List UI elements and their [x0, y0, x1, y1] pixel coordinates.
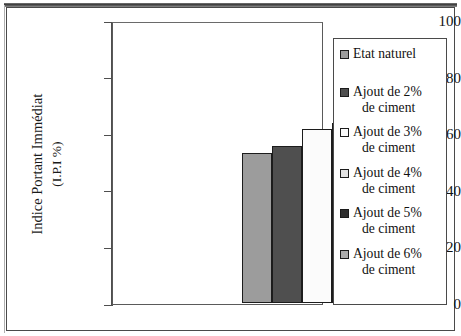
legend-label-line1: Ajout de 2%	[353, 84, 422, 99]
legend-label-line2: de ciment	[353, 221, 422, 237]
legend-swatch-icon	[340, 50, 349, 59]
legend-label-line2: de ciment	[353, 140, 422, 156]
legend-item: Ajout de 6%de ciment	[340, 246, 442, 278]
legend-label: Etat naturel	[353, 46, 416, 62]
plot-area	[112, 22, 323, 305]
legend-label-line1: Ajout de 4%	[353, 165, 422, 180]
legend-swatch-icon	[340, 128, 349, 137]
legend-label-line1: Ajout de 5%	[353, 205, 422, 220]
legend-swatch-icon	[340, 169, 349, 178]
y-axis-title-line1: Indice Portant Immédiat	[29, 94, 45, 235]
legend-label-line2: de ciment	[353, 100, 422, 116]
chart-legend: Etat naturelAjout de 2%de cimentAjout de…	[333, 38, 447, 305]
legend-label-line2: de ciment	[353, 262, 422, 278]
legend-swatch-icon	[340, 209, 349, 218]
legend-label: Ajout de 4%de ciment	[353, 165, 422, 197]
y-axis-title: Indice Portant Immédiat (I.P.I %)	[14, 22, 80, 307]
bar-3	[302, 129, 332, 303]
legend-label: Ajout de 6%de ciment	[353, 246, 422, 278]
legend-item: Ajout de 5%de ciment	[340, 205, 442, 237]
y-axis-title-line2: (I.P.I %)	[49, 142, 64, 187]
legend-item: Ajout de 2%de ciment	[340, 84, 442, 116]
legend-swatch-icon	[340, 250, 349, 259]
legend-item: Ajout de 4%de ciment	[340, 165, 442, 197]
legend-item: Ajout de 3%de ciment	[340, 124, 442, 156]
legend-label: Ajout de 2%de ciment	[353, 84, 422, 116]
legend-label-line1: Ajout de 6%	[353, 246, 422, 261]
legend-item: Etat naturel	[340, 46, 442, 62]
legend-swatch-icon	[340, 88, 349, 97]
chart-figure: Indice Portant Immédiat (I.P.I %) 100806…	[0, 0, 461, 336]
bar-1	[242, 153, 272, 303]
legend-label-line1: Etat naturel	[353, 46, 416, 61]
legend-label-line1: Ajout de 3%	[353, 124, 422, 139]
legend-label-line2: de ciment	[353, 181, 422, 197]
legend-label: Ajout de 5%de ciment	[353, 205, 422, 237]
legend-label: Ajout de 3%de ciment	[353, 124, 422, 156]
bar-2	[272, 146, 302, 303]
